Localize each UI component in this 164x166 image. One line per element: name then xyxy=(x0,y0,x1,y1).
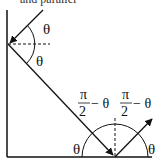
theta-bottom-left-label: θ xyxy=(73,141,80,157)
diagram-canvas: θ θ π 2 − θ π 2 − θ θ θ xyxy=(0,0,164,166)
theta-upper-left-label: θ xyxy=(43,21,50,37)
incident-ray xyxy=(10,10,43,43)
frac-left-numerator: π xyxy=(80,87,87,102)
caption-text: and parallel xyxy=(20,0,76,7)
frac-right-denominator: 2 xyxy=(121,104,128,119)
frac-right-numerator: π xyxy=(122,87,129,102)
reflection-diagram: and parallel θ θ π 2 − θ π xyxy=(0,0,164,166)
theta-lower-left-label: θ xyxy=(36,53,43,69)
frac-left-suffix: − θ xyxy=(91,96,109,111)
frac-right-suffix: − θ xyxy=(133,96,151,111)
frac-left-denominator: 2 xyxy=(79,104,86,119)
theta-bottom-right-label: θ xyxy=(148,141,155,157)
